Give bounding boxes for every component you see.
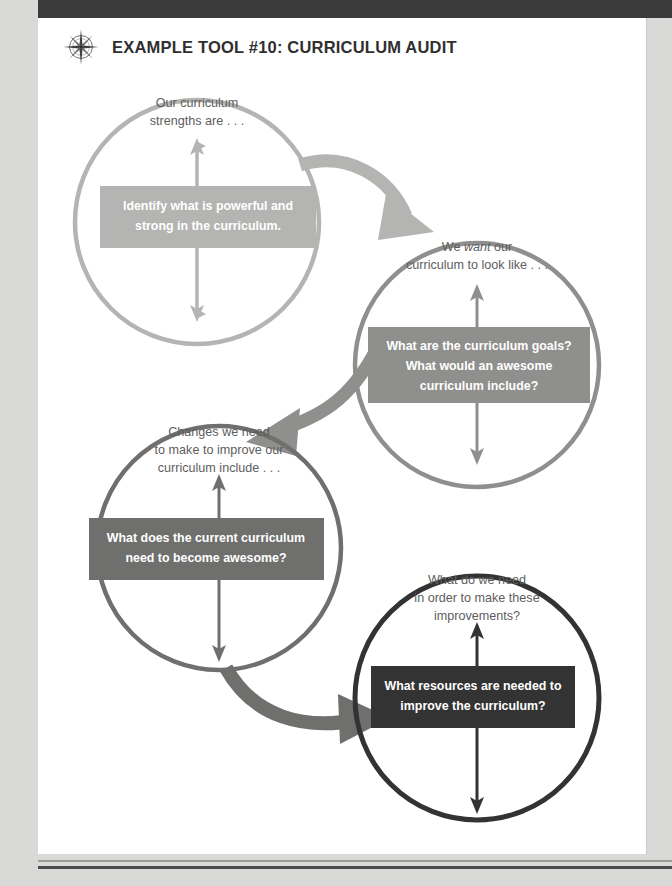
step-1-label-box: [100, 186, 316, 248]
step-4-heading: What do we needin order to make theseimp…: [414, 573, 539, 623]
connector-step3-to-step4: [226, 668, 390, 744]
step-2-group: We want ourcurriculum to look like . . .…: [355, 240, 599, 487]
page-canvas: EXAMPLE TOOL #10: CURRICULUM AUDIT Our c…: [0, 0, 672, 886]
step-4-group: What do we needin order to make theseimp…: [355, 573, 599, 820]
curriculum-audit-diagram: Our curriculumstrengths are . . . Identi…: [38, 18, 646, 854]
step-1-group: Our curriculumstrengths are . . . Identi…: [75, 96, 319, 344]
step-3-group: Changes we needto make to improve ourcur…: [89, 425, 341, 670]
step-3-label-box: [89, 518, 324, 580]
step-4-label-box: [371, 666, 575, 728]
bottom-rule-light: [38, 860, 672, 862]
step-3-heading: Changes we needto make to improve ourcur…: [155, 425, 284, 475]
top-bar: [38, 0, 672, 18]
step-1-heading: Our curriculumstrengths are . . .: [150, 96, 245, 128]
bottom-rule-dark: [38, 866, 672, 869]
